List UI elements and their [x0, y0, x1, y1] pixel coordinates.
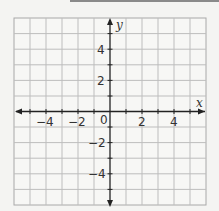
- x-tick-neg2: −2: [68, 115, 86, 129]
- x-tick-neg4: −4: [36, 115, 54, 129]
- x-tick-2: 2: [138, 115, 146, 129]
- y-tick-neg2: −2: [88, 136, 106, 150]
- y-tick-4: 4: [97, 43, 105, 57]
- y-tick-2: 2: [97, 74, 105, 88]
- y-axis-label: y: [115, 18, 123, 32]
- y-tick-neg4: −4: [88, 167, 106, 181]
- origin-label: 0: [100, 113, 108, 127]
- x-tick-4: 4: [170, 115, 178, 129]
- x-axis-label: x: [196, 96, 203, 110]
- coordinate-grid: y x 0 −4 −2 2 4 4 2 −2 −4: [0, 0, 219, 211]
